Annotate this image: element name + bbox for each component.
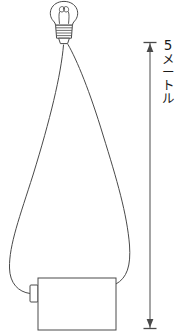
dimension-arrow — [144, 42, 157, 329]
diagram-canvas: 5 メ ー ト ル — [0, 0, 180, 334]
dimension-unit-char-3: ル — [162, 92, 175, 105]
screw-base-body — [56, 25, 73, 38]
circuit-diagram-svg — [0, 0, 180, 334]
dimension-value: 5 — [164, 38, 173, 52]
light-bulb — [50, 1, 77, 43]
bulb-glass — [50, 1, 77, 25]
dimension-arrowhead-bottom — [147, 319, 154, 328]
battery-terminal-nub — [30, 285, 38, 302]
dimension-arrowhead-top — [147, 44, 154, 53]
battery-cell — [30, 278, 116, 330]
wires-group — [9, 45, 129, 294]
screw-base-tip — [59, 38, 70, 43]
battery-body — [38, 278, 116, 330]
left-wire — [9, 45, 63, 294]
right-wire — [68, 45, 130, 285]
bulb-screw-base — [56, 25, 73, 43]
dimension-label: 5 メ ー ト ル — [158, 38, 178, 105]
